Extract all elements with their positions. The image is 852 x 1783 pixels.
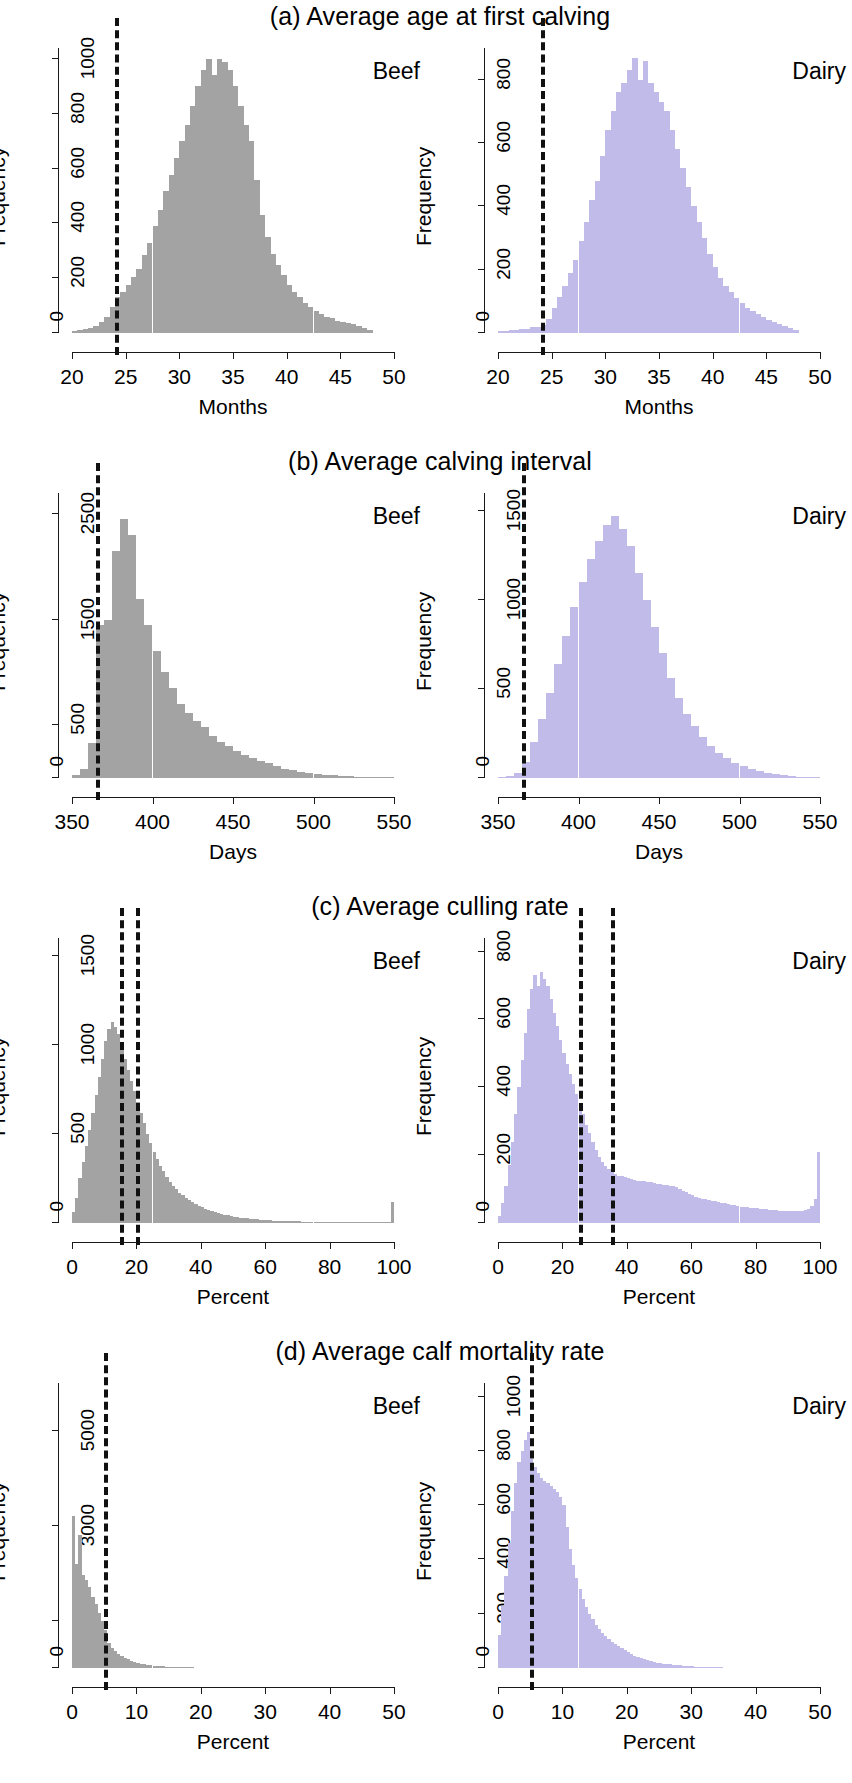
histogram-bar <box>570 607 578 778</box>
plot-a-beef: Beef02004006008001000Frequency2025303540… <box>0 38 426 438</box>
axes: 0200400600800Frequency20253035404550Mont… <box>498 48 820 333</box>
histogram-bar <box>354 777 362 778</box>
y-tick <box>52 1667 59 1668</box>
x-tick-label: 30 <box>680 1700 703 1724</box>
x-tick-label: 550 <box>802 810 837 834</box>
figure-histogram-grid: (a) Average age at first calvingBeef0200… <box>0 0 852 1783</box>
histogram-bar <box>136 599 144 778</box>
y-tick <box>52 168 59 169</box>
panel-title: (c) Average culling rate <box>0 892 852 921</box>
x-tick-label: 0 <box>66 1255 78 1279</box>
y-tick <box>478 269 485 270</box>
y-tick <box>478 1396 485 1397</box>
x-axis-title: Days <box>72 840 394 864</box>
histogram-bar <box>554 664 562 778</box>
plot-c-beef: Beef050010001500Frequency020406080100Per… <box>0 928 426 1328</box>
plot-d-dairy: Dairy02004006008001000Frequency010203040… <box>426 1373 852 1773</box>
plot-c-dairy: Dairy0200400600800Frequency020406080100P… <box>426 928 852 1328</box>
x-tick-label: 40 <box>615 1255 638 1279</box>
histogram-bar <box>191 1667 194 1668</box>
histogram-bar <box>257 761 265 778</box>
x-tick-label: 100 <box>802 1255 837 1279</box>
histogram-bar <box>707 746 715 778</box>
histogram-bar <box>370 777 378 778</box>
panel-title: (b) Average calving interval <box>0 447 852 476</box>
reference-line <box>541 18 545 355</box>
histogram-bar <box>562 636 570 779</box>
y-axis-title: Frequency <box>0 146 10 245</box>
x-tick-label: 50 <box>382 365 405 389</box>
histogram-bar <box>720 1667 723 1668</box>
y-tick <box>478 1450 485 1451</box>
histogram-bar <box>699 737 707 778</box>
x-tick <box>498 1687 499 1694</box>
x-tick-label: 40 <box>189 1255 212 1279</box>
x-tick <box>394 1242 395 1249</box>
x-tick-label: 0 <box>492 1255 504 1279</box>
histogram-bar <box>88 743 96 778</box>
x-tick <box>233 797 234 804</box>
y-axis-line <box>58 1383 59 1668</box>
histogram-bar <box>651 627 659 778</box>
x-tick <box>605 352 606 359</box>
histogram-bars <box>498 493 820 778</box>
histogram-bars <box>72 48 394 333</box>
histogram-bar <box>530 742 538 778</box>
x-tick <box>201 1242 202 1249</box>
y-tick <box>52 777 59 778</box>
histogram-bar <box>817 1152 820 1223</box>
x-tick-label: 40 <box>701 365 724 389</box>
x-tick <box>659 352 660 359</box>
x-tick-label: 10 <box>125 1700 148 1724</box>
histogram-bar <box>161 672 169 778</box>
axes: 050010001500Frequency350400450500550Days <box>498 493 820 778</box>
histogram-bar <box>546 693 554 779</box>
histogram-bar <box>675 698 683 778</box>
x-tick-label: 40 <box>318 1700 341 1724</box>
x-tick <box>691 1242 692 1249</box>
histogram-bar <box>153 651 161 778</box>
x-tick <box>552 352 553 359</box>
histogram-bar <box>635 573 643 778</box>
x-tick <box>72 1687 73 1694</box>
x-tick <box>72 797 73 804</box>
x-tick-label: 40 <box>275 365 298 389</box>
histogram-bar <box>723 758 731 778</box>
x-tick-label: 80 <box>744 1255 767 1279</box>
histogram-bar <box>289 770 297 778</box>
x-tick <box>394 1687 395 1694</box>
plot-b-dairy: Dairy050010001500Frequency35040045050055… <box>426 483 852 883</box>
y-tick <box>52 1525 59 1526</box>
x-tick-label: 50 <box>382 1700 405 1724</box>
y-tick <box>52 619 59 620</box>
reference-line <box>530 1353 534 1690</box>
x-tick-label: 40 <box>744 1700 767 1724</box>
x-tick <box>740 797 741 804</box>
y-tick <box>478 79 485 80</box>
histogram-bar <box>169 688 177 778</box>
y-axis-title: Frequency <box>412 146 436 245</box>
y-tick <box>52 1044 59 1045</box>
y-tick <box>478 1504 485 1505</box>
histogram-bar <box>731 763 739 778</box>
x-tick <box>287 352 288 359</box>
x-tick-label: 50 <box>808 365 831 389</box>
x-tick <box>820 352 821 359</box>
histogram-bars <box>498 938 820 1223</box>
x-tick-label: 0 <box>66 1700 78 1724</box>
y-tick <box>478 510 485 511</box>
y-tick <box>478 1613 485 1614</box>
y-axis-title: Frequency <box>412 591 436 690</box>
y-axis-line <box>484 48 485 333</box>
histogram-bar <box>627 546 635 778</box>
x-axis-title: Months <box>498 395 820 419</box>
x-tick-label: 500 <box>722 810 757 834</box>
histogram-bar <box>338 776 346 778</box>
histogram-bar <box>780 775 788 778</box>
x-tick <box>691 1687 692 1694</box>
histogram-bars <box>72 493 394 778</box>
x-tick-label: 450 <box>641 810 676 834</box>
x-tick-label: 25 <box>114 365 137 389</box>
histogram-bar <box>796 777 804 778</box>
histogram-bar <box>587 559 595 778</box>
